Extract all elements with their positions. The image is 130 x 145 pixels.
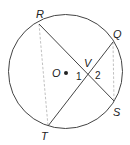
chord-qt bbox=[48, 42, 113, 126]
angle-2-label: 2 bbox=[95, 70, 101, 81]
angle-1-label: 1 bbox=[76, 71, 82, 82]
label-q: Q bbox=[113, 28, 122, 40]
label-r: R bbox=[36, 8, 44, 20]
label-t: T bbox=[41, 130, 49, 142]
center-point-o bbox=[64, 71, 68, 75]
label-o: O bbox=[52, 67, 61, 79]
segment-qs-dashed bbox=[113, 42, 114, 101]
segment-rt-dashed bbox=[39, 24, 48, 126]
label-s: S bbox=[113, 106, 121, 118]
circle-chord-diagram: R Q S T V O 1 2 bbox=[0, 0, 130, 145]
label-v: V bbox=[84, 57, 93, 69]
